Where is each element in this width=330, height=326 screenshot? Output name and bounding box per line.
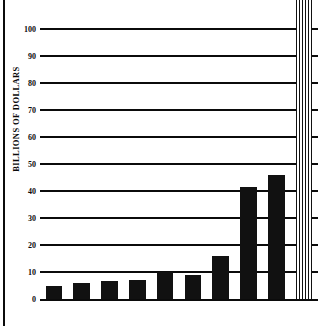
y-axis-tick-label: 20 xyxy=(28,241,36,250)
y-axis-tick-label: 80 xyxy=(28,79,36,88)
x-axis-baseline xyxy=(40,299,318,301)
y-axis-tick-label: 100 xyxy=(24,25,36,34)
bar-1980 xyxy=(157,272,174,299)
chart-page: BILLIONS OF DOLLARS 01020304050607080901… xyxy=(0,0,330,326)
bar-1983 xyxy=(240,187,257,299)
bar-1985 xyxy=(296,0,313,299)
y-axis-tick-label: 50 xyxy=(28,160,36,169)
bar-1977 xyxy=(73,283,90,299)
bar-1976 xyxy=(46,286,63,300)
gridline xyxy=(40,55,318,57)
y-axis-tick-label: 10 xyxy=(28,268,36,277)
bar-1982 xyxy=(212,256,229,299)
bar-1984 xyxy=(268,175,285,299)
page-border-rule xyxy=(3,0,5,326)
bar-1978 xyxy=(101,281,118,299)
y-axis-tick-label: 70 xyxy=(28,106,36,115)
y-axis-tick-label: 30 xyxy=(28,214,36,223)
y-axis-tick-label: 40 xyxy=(28,187,36,196)
y-axis-tick-label: 90 xyxy=(28,52,36,61)
plot-area: 0102030405060708090100 19761977197819791… xyxy=(40,20,318,301)
y-axis-title: BILLIONS OF DOLLARS xyxy=(11,59,21,179)
gridline xyxy=(40,136,318,138)
bar-1979 xyxy=(129,280,146,299)
gridline xyxy=(40,28,318,30)
gridline xyxy=(40,163,318,165)
y-axis-tick-label: 0 xyxy=(32,295,36,304)
gridline xyxy=(40,109,318,111)
y-axis-tick-label: 60 xyxy=(28,133,36,142)
gridline xyxy=(40,82,318,84)
bar-1981 xyxy=(185,275,202,299)
